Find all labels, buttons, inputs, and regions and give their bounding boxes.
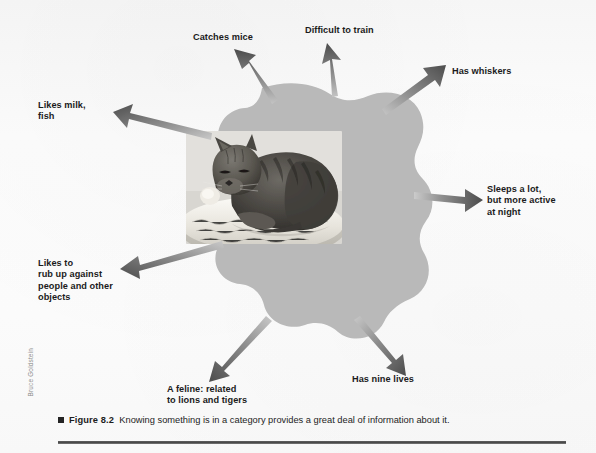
label-likes-to-rub: Likes to rub up against people and other…: [38, 258, 113, 304]
figure-caption: Figure 8.2 Knowing something is in a cat…: [58, 414, 568, 426]
label-likes-milk-fish: Likes milk, fish: [38, 100, 86, 123]
label-sleeps-a-lot: Sleeps a lot, but more active at night: [487, 184, 556, 218]
caption-figure-number: Figure 8.2: [69, 415, 119, 425]
arrow-catches-mice: [234, 49, 278, 104]
figure-page: Catches mice Difficult to train Has whis…: [0, 0, 596, 453]
figure-illustration: Catches mice Difficult to train Has whis…: [0, 0, 596, 410]
page-rule: [58, 441, 566, 444]
label-has-nine-lives: Has nine lives: [352, 374, 414, 385]
arrow-a-feline: [209, 316, 272, 382]
label-difficult-to-train: Difficult to train: [305, 25, 374, 36]
arrow-difficult-to-train: [322, 43, 341, 97]
arrow-likes-milk-fish: [113, 104, 212, 140]
label-a-feline: A feline: related to lions and tigers: [167, 384, 247, 407]
caption-text: Knowing something is in a category provi…: [119, 415, 449, 425]
arrow-likes-to-rub: [120, 241, 224, 279]
photo-credit: Bruce Goldstein: [27, 348, 34, 396]
cat-photo: [178, 131, 346, 258]
caption-bullet-icon: [58, 417, 64, 423]
label-catches-mice: Catches mice: [193, 32, 253, 43]
label-has-whiskers: Has whiskers: [452, 66, 511, 77]
